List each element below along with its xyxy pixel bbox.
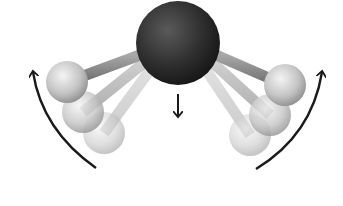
atom-left-1 [46,61,88,103]
left-outer-atoms [46,55,150,154]
central-atom [136,1,220,85]
bending-vibration-diagram: molecular bending vibration [0,0,343,206]
atom-right-1 [264,64,306,106]
